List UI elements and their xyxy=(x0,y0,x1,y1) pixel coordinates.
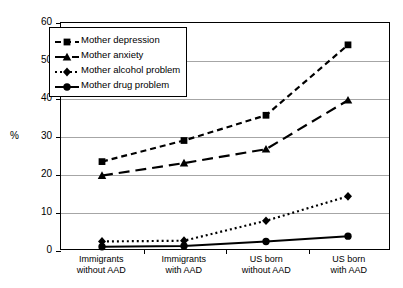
data-point-marker xyxy=(344,96,353,104)
data-point-marker xyxy=(262,216,270,225)
data-point-marker xyxy=(63,83,70,90)
y-tick-label: 60 xyxy=(26,17,52,27)
series-line xyxy=(102,196,348,241)
legend-item: Mother depression xyxy=(54,32,180,47)
data-point-marker xyxy=(63,67,71,76)
x-category-label-line: with AAD xyxy=(294,265,403,276)
data-point-marker xyxy=(344,233,351,240)
data-point-marker xyxy=(180,242,187,249)
series-1 xyxy=(98,96,353,179)
y-tick-mark xyxy=(56,251,61,252)
x-category-label-line: US born xyxy=(294,254,403,265)
chart-legend: Mother depressionMother anxietyMother al… xyxy=(49,27,187,97)
legend-swatch-diamond-icon xyxy=(54,64,80,76)
series-line xyxy=(102,100,348,175)
y-axis-title: % xyxy=(10,131,19,141)
legend-label: Mother alcohol problem xyxy=(80,64,180,76)
legend-swatch-square-icon xyxy=(54,34,80,46)
data-point-marker xyxy=(181,137,188,144)
y-tick-label: 10 xyxy=(26,207,52,217)
legend-item: Mother drug problem xyxy=(54,77,180,92)
legend-item: Mother alcohol problem xyxy=(54,62,180,77)
legend-swatch-circle-icon xyxy=(54,79,80,91)
data-point-marker xyxy=(99,158,106,165)
data-point-marker xyxy=(345,41,352,48)
data-point-marker xyxy=(64,38,71,45)
x-category-label: US bornwith AAD xyxy=(294,254,403,276)
data-point-marker xyxy=(98,243,105,250)
y-tick-label: 20 xyxy=(26,169,52,179)
legend-label: Mother anxiety xyxy=(80,49,143,61)
series-line xyxy=(102,236,348,247)
data-point-marker xyxy=(262,238,269,245)
data-point-marker xyxy=(344,192,352,201)
y-tick-label: 30 xyxy=(26,131,52,141)
data-point-marker xyxy=(262,145,271,153)
series-3 xyxy=(98,233,351,251)
legend-label: Mother depression xyxy=(80,34,160,46)
legend-swatch-triangle-icon xyxy=(54,49,80,61)
legend-item: Mother anxiety xyxy=(54,47,180,62)
data-point-marker xyxy=(263,112,270,119)
legend-label: Mother drug problem xyxy=(80,79,169,91)
line-chart: 0102030405060 % Immigrantswithout AADImm… xyxy=(0,0,403,288)
